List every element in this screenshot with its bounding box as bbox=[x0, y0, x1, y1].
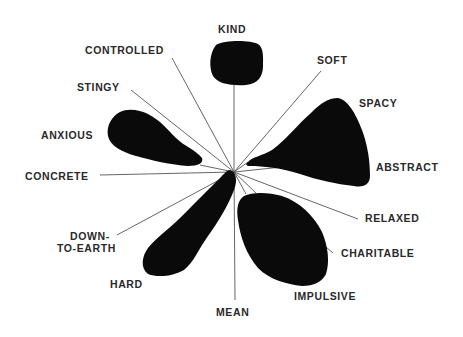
label-concrete: CONCRETE bbox=[25, 170, 89, 182]
spoke-mean bbox=[234, 172, 235, 300]
label-mean: MEAN bbox=[216, 306, 249, 318]
spoke-impulsive bbox=[234, 172, 256, 193]
label-charitable: CHARITABLE bbox=[341, 247, 414, 259]
label-spacy: SPACY bbox=[359, 97, 397, 109]
label-controlled: CONTROLLED bbox=[85, 44, 164, 56]
semantic-star-diagram: KIND CONTROLLED SOFT STINGY SPACY ANXIOU… bbox=[0, 0, 463, 337]
label-abstract: ABSTRACT bbox=[376, 161, 439, 173]
label-stingy: STINGY bbox=[77, 81, 120, 93]
hard-blob bbox=[143, 170, 236, 276]
label-soft: SOFT bbox=[317, 54, 347, 66]
label-kind: KIND bbox=[218, 23, 246, 35]
label-relaxed: RELAXED bbox=[365, 212, 419, 224]
anxious-blob bbox=[108, 110, 203, 166]
label-impulsive: IMPULSIVE bbox=[294, 290, 356, 302]
spacy-abstract-blob bbox=[246, 98, 370, 187]
kind-blob bbox=[210, 41, 263, 85]
label-down: DOWN- bbox=[70, 230, 110, 242]
spoke-concrete bbox=[100, 172, 234, 175]
blobs bbox=[108, 41, 370, 286]
label-hard: HARD bbox=[110, 278, 143, 290]
label-to-earth: TO-EARTH bbox=[57, 242, 116, 254]
label-anxious: ANXIOUS bbox=[41, 129, 93, 141]
charitable-impulsive-blob bbox=[237, 193, 328, 286]
